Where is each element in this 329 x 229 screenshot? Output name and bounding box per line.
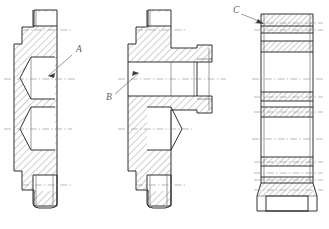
label-c-group: C: [233, 5, 264, 24]
cad-drawing-svg: A B C: [0, 0, 329, 229]
label-c-text: C: [233, 5, 240, 15]
technical-drawing-canvas: A B C: [0, 0, 329, 229]
label-a-text: A: [75, 44, 82, 54]
figure-left-flange-section: [4, 6, 76, 212]
label-b-text: B: [106, 92, 112, 102]
right-bottom-foot: [266, 196, 308, 211]
figure-right-cylinder-section: [252, 14, 325, 211]
figure-middle-flange-hub-section: [118, 6, 226, 212]
